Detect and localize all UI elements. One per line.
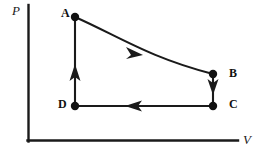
state-label-b: B xyxy=(229,67,237,79)
state-label-a: A xyxy=(61,7,70,19)
y-axis-label: P xyxy=(12,4,20,17)
x-axis-label: V xyxy=(243,133,251,146)
state-label-c: C xyxy=(229,98,238,110)
state-point-c xyxy=(209,102,217,110)
state-point-d xyxy=(71,102,79,110)
diagram-canvas xyxy=(0,0,260,154)
state-label-d: D xyxy=(58,98,67,110)
pv-cycle-diagram: P V A B C D xyxy=(0,0,260,154)
state-point-b xyxy=(209,70,217,78)
process-ab-curve xyxy=(75,17,213,74)
state-point-a xyxy=(71,13,79,21)
